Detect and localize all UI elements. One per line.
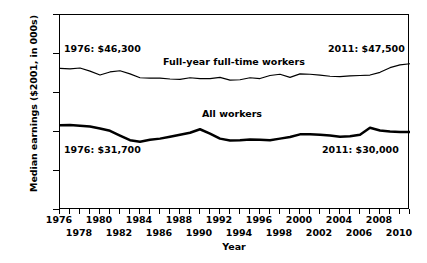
y-tick-mark: [53, 53, 59, 54]
annotation-2011-full-year: 2011: $47,500: [328, 43, 405, 54]
x-tick-mark: [239, 209, 240, 214]
annotation-1976-all-workers: 1976: $31,700: [64, 144, 141, 155]
x-tick-label: 2002: [306, 227, 332, 238]
y-axis-title: Median earnings ($2001, in 000s): [28, 9, 39, 199]
x-tick-mark: [159, 209, 160, 214]
y-tick-mark: [53, 131, 59, 132]
x-tick-label: 1984: [126, 214, 152, 225]
x-tick-label: 1986: [146, 227, 172, 238]
x-tick-mark: [79, 209, 80, 214]
x-tick-label: 1976: [46, 214, 72, 225]
x-tick-label: 1980: [86, 214, 112, 225]
x-tick-label: 1998: [266, 227, 292, 238]
x-tick-label: 2000: [286, 214, 312, 225]
x-tick-label: 1978: [66, 227, 92, 238]
x-axis-title: Year: [59, 241, 409, 252]
x-tick-label: 1996: [246, 214, 272, 225]
x-tick-mark: [319, 209, 320, 214]
x-tick-label: 1982: [106, 227, 132, 238]
x-tick-mark: [399, 209, 400, 214]
series-line-all-workers: [60, 125, 410, 142]
x-tick-mark: [409, 209, 410, 214]
x-tick-mark: [199, 209, 200, 214]
annotation-2011-all-workers: 2011: $30,000: [322, 144, 399, 155]
series-label-full-year-full-time: Full-year full-time workers: [163, 56, 305, 67]
x-tick-label: 2006: [346, 227, 372, 238]
y-tick-mark: [53, 170, 59, 171]
x-tick-label: 2008: [366, 214, 392, 225]
x-tick-label: 1988: [166, 214, 192, 225]
x-tick-label: 1994: [226, 227, 252, 238]
x-tick-label: 1990: [186, 227, 212, 238]
annotation-1976-full-year: 1976: $46,300: [64, 43, 141, 54]
x-tick-mark: [119, 209, 120, 214]
x-tick-mark: [359, 209, 360, 214]
y-tick-mark: [53, 92, 59, 93]
x-tick-label: 2004: [326, 214, 352, 225]
series-label-all-workers: All workers: [202, 108, 262, 119]
x-tick-label: 1992: [206, 214, 232, 225]
x-tick-mark: [279, 209, 280, 214]
y-tick-mark: [53, 14, 59, 15]
x-tick-label: 2010: [386, 227, 412, 238]
chart-figure: Median earnings ($2001, in 000s) $10$20$…: [0, 0, 427, 263]
